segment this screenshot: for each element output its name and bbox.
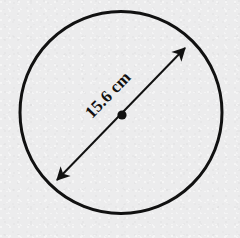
center-dot xyxy=(117,110,126,119)
circle-diagram-figure: 15.6 cm xyxy=(0,0,240,238)
circle-diagram-canvas: 15.6 cm xyxy=(0,0,240,238)
diameter-measurement-label: 15.6 cm xyxy=(81,68,134,122)
